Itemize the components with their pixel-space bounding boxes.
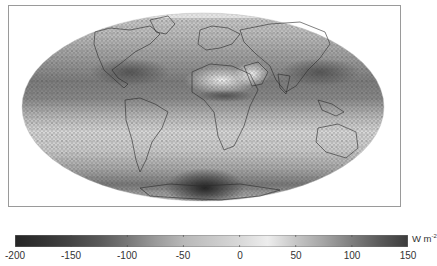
- colorbar-tick-label: -200: [5, 250, 25, 261]
- colorbar-tick-label: 0: [237, 250, 243, 261]
- global-map: [0, 0, 434, 215]
- colorbar-tick-label: -150: [61, 250, 81, 261]
- colorbar-tick-label: 100: [344, 250, 361, 261]
- colorbar-tick-label: 50: [290, 250, 301, 261]
- colorbar-tick-label: 150: [400, 250, 417, 261]
- colorbar-tick-label: -50: [176, 250, 190, 261]
- colorbar-unit: W m-2: [412, 233, 437, 244]
- colorbar: [15, 235, 408, 247]
- colorbar-tick-label: -100: [117, 250, 137, 261]
